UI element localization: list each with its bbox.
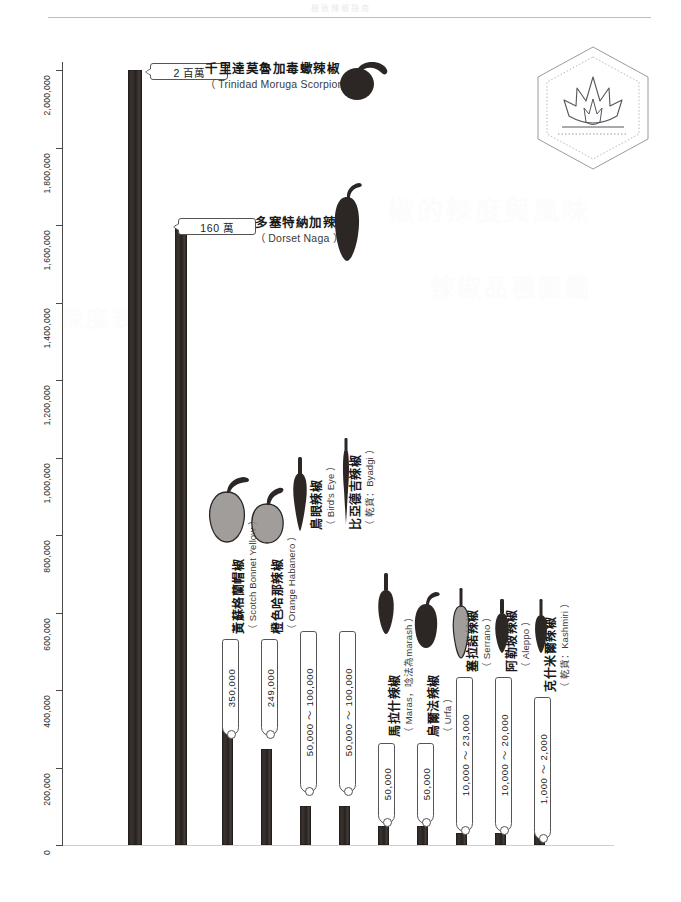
value-label-3: 350,000 bbox=[225, 668, 236, 707]
bar-6[interactable] bbox=[339, 806, 350, 845]
y-axis-tick bbox=[56, 303, 63, 304]
y-axis-tick bbox=[56, 148, 63, 149]
pepper-name-en-4: （ Orange Habanero ） bbox=[285, 531, 298, 634]
y-axis-tick-label: 1,000,000 bbox=[42, 463, 52, 504]
value-label-1: 2 百萬 bbox=[173, 64, 204, 79]
pepper-name-en-6: （ 乾貨：Byadgi ） bbox=[363, 444, 376, 530]
pepper-name-en-11: （ 乾貨：Kashmiri ） bbox=[558, 598, 571, 692]
y-axis-tick bbox=[56, 690, 63, 691]
dorset-naga-pepper bbox=[327, 181, 367, 263]
value-callout-4: 249,000 bbox=[261, 639, 278, 736]
y-axis-tick-label: 2,000,000 bbox=[42, 75, 52, 116]
value-label-4: 249,000 bbox=[264, 668, 275, 707]
value-label-7: 50,000 bbox=[381, 767, 392, 800]
pepper-label-5: 鳥眼辣椒（ Bird's Eye ） bbox=[310, 461, 337, 530]
callout-dot-5 bbox=[305, 787, 314, 796]
x-axis-baseline bbox=[62, 845, 614, 846]
bar-4[interactable] bbox=[261, 749, 272, 845]
pepper-label-8: 烏爾法辣椒（ Urfa ） bbox=[427, 674, 454, 737]
callout-dot-10 bbox=[500, 826, 509, 835]
value-callout-9: 10,000 ～ 23,000 bbox=[456, 677, 473, 832]
callout-dot-9 bbox=[461, 826, 470, 835]
callout-dot-11 bbox=[539, 834, 548, 843]
serrano-pepper bbox=[447, 586, 475, 662]
aleppo-pepper bbox=[489, 597, 515, 655]
y-axis-tick bbox=[56, 535, 63, 536]
y-axis-tick-label: 800,000 bbox=[42, 540, 52, 573]
bar-5[interactable] bbox=[300, 806, 311, 845]
callout-dot-7 bbox=[383, 818, 392, 827]
value-callout-8: 50,000 bbox=[417, 743, 434, 824]
y-axis bbox=[62, 62, 63, 845]
bar-8[interactable] bbox=[417, 826, 428, 845]
value-label-6: 50,000 ～ 100,000 bbox=[341, 668, 355, 756]
pepper-name-zh-4: 橙色哈那辣椒 bbox=[271, 531, 285, 634]
scoville-bar-chart: 0200,000400,000600,000800,0001,000,0001,… bbox=[0, 0, 681, 902]
value-label-8: 50,000 bbox=[420, 767, 431, 800]
value-label-5: 50,000 ～ 100,000 bbox=[302, 668, 316, 756]
value-callout-2: 160 萬 bbox=[178, 218, 256, 235]
callout-dot-4 bbox=[266, 730, 275, 739]
value-callout-10: 10,000 ～ 20,000 bbox=[495, 677, 512, 832]
pepper-name-zh-8: 烏爾法辣椒 bbox=[427, 674, 441, 737]
value-callout-5: 50,000 ～ 100,000 bbox=[300, 631, 317, 793]
bar-1[interactable] bbox=[128, 70, 142, 845]
y-axis-tick-label: 1,400,000 bbox=[42, 308, 52, 349]
kashmiri-pepper bbox=[529, 597, 553, 655]
value-callout-7: 50,000 bbox=[378, 743, 395, 824]
y-axis-tick bbox=[56, 225, 63, 226]
y-axis-tick bbox=[56, 768, 63, 769]
value-label-9: 10,000 ～ 23,000 bbox=[458, 713, 472, 795]
y-axis-tick bbox=[56, 845, 63, 846]
callout-dot-8 bbox=[422, 818, 431, 827]
value-label-10: 10,000 ～ 20,000 bbox=[497, 713, 511, 795]
y-axis-tick-label: 1,200,000 bbox=[42, 385, 52, 426]
y-axis-tick-label: 400,000 bbox=[42, 695, 52, 728]
y-axis-tick-label: 1,800,000 bbox=[42, 153, 52, 194]
y-axis-tick-label: 600,000 bbox=[42, 618, 52, 651]
y-axis-tick-label: 0 bbox=[42, 850, 52, 855]
orange-habanero-pepper bbox=[246, 484, 292, 546]
bar-2[interactable] bbox=[175, 225, 187, 845]
y-axis-tick bbox=[56, 380, 63, 381]
y-axis-tick bbox=[56, 458, 63, 459]
callout-nib-2 bbox=[173, 223, 179, 231]
urfa-pepper bbox=[408, 590, 444, 652]
value-callout-3: 350,000 bbox=[222, 639, 239, 736]
value-callout-6: 50,000 ～ 100,000 bbox=[339, 631, 356, 793]
callout-dot-6 bbox=[344, 787, 353, 796]
y-axis-tick-label: 200,000 bbox=[42, 773, 52, 806]
value-label-11: 1,000 ～ 2,000 bbox=[536, 733, 550, 804]
birds-eye-pepper bbox=[287, 455, 313, 533]
pepper-name-en-8: （ Urfa ） bbox=[441, 674, 454, 737]
pepper-label-4: 橙色哈那辣椒（ Orange Habanero ） bbox=[271, 531, 298, 634]
byadgi-pepper bbox=[336, 438, 356, 526]
value-callout-11: 1,000 ～ 2,000 bbox=[534, 697, 551, 840]
y-axis-tick bbox=[56, 613, 63, 614]
maras-pepper bbox=[372, 570, 400, 636]
callout-dot-3 bbox=[227, 730, 236, 739]
y-axis-tick-label: 1,600,000 bbox=[42, 230, 52, 271]
callout-nib-1 bbox=[145, 68, 151, 76]
bar-7[interactable] bbox=[378, 826, 389, 845]
chart-page: 極致辣椒指南 椒的辣度與風味 辣椒品種圖鑑 辣度表 0200,000400,00… bbox=[0, 0, 681, 902]
y-axis-tick bbox=[56, 70, 63, 71]
trinidad-moruga-scorpion-pepper bbox=[333, 58, 393, 104]
value-label-2: 160 萬 bbox=[200, 219, 233, 234]
